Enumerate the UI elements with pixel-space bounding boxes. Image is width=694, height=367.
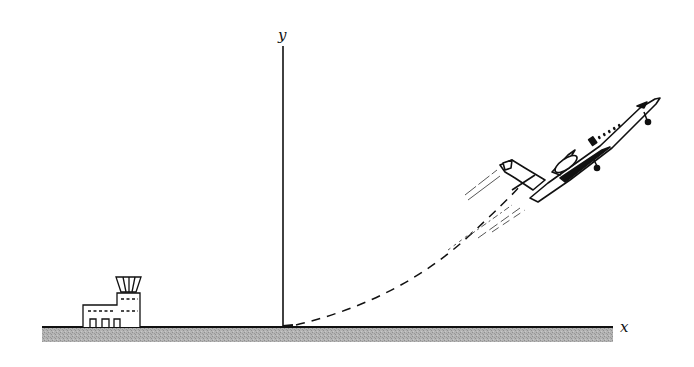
x-axis-label: x (620, 318, 629, 336)
ground (42, 327, 613, 342)
origin-mark (283, 325, 293, 326)
y-axis-label: y (277, 26, 287, 44)
jet-airplane (500, 98, 660, 202)
flight-path (296, 179, 524, 325)
exhaust-trail (448, 170, 525, 250)
control-tower (83, 277, 141, 327)
takeoff-diagram: x y (0, 0, 694, 367)
